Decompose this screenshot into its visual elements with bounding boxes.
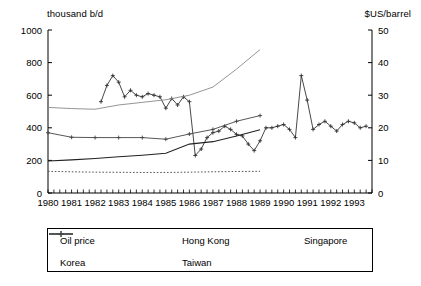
data-point-marker (140, 95, 144, 99)
series-korea (48, 50, 260, 110)
x-tick-label: 1982 (85, 197, 106, 208)
legend-item-taiwan[interactable]: Taiwan (182, 257, 304, 268)
data-point-marker (117, 136, 121, 140)
y2-tick-label: 40 (378, 57, 389, 68)
y2-tick-label: 0 (378, 188, 383, 199)
x-tick-label: 1989 (250, 197, 271, 208)
data-point-marker (305, 98, 309, 102)
data-point-marker (264, 126, 268, 130)
series-line (48, 171, 260, 172)
data-point-marker (364, 124, 368, 128)
data-point-marker (70, 135, 74, 139)
data-point-marker (164, 137, 168, 141)
x-tick-label: 1986 (179, 197, 200, 208)
x-tick-label: 1990 (273, 197, 294, 208)
y-tick-label: 1000 (21, 25, 42, 36)
legend-item-oil-price[interactable]: Oil price (60, 235, 182, 246)
data-point-marker (105, 83, 109, 87)
data-point-marker (258, 139, 262, 143)
data-point-marker (187, 132, 191, 136)
x-tick-label: 1981 (61, 197, 82, 208)
x-tick-label: 1988 (226, 197, 247, 208)
series-line (48, 50, 260, 110)
data-point-marker (99, 100, 103, 104)
series-line (48, 130, 260, 161)
y2-tick-label: 20 (378, 122, 389, 133)
legend-label: Hong Kong (182, 235, 230, 246)
x-tick-label: 1984 (132, 197, 153, 208)
series-line (101, 76, 366, 156)
y-tick-label: 600 (26, 90, 42, 101)
chart-container: thousand b/d $US/barrel 0200400600800100… (0, 0, 421, 286)
data-point-marker (270, 126, 274, 130)
data-point-marker (46, 131, 50, 135)
x-tick-label: 1985 (155, 197, 176, 208)
data-point-marker (346, 119, 350, 123)
series-oil-price (99, 74, 368, 158)
data-point-marker (158, 95, 162, 99)
x-tick-label: 1991 (297, 197, 318, 208)
legend-label: Taiwan (182, 257, 212, 268)
legend-item-korea[interactable]: Korea (60, 257, 182, 268)
data-point-marker (276, 124, 280, 128)
data-point-marker (140, 136, 144, 140)
x-tick-label: 1983 (108, 197, 129, 208)
data-point-marker (258, 114, 262, 118)
data-point-marker (235, 119, 239, 123)
y2-tick-label: 30 (378, 90, 389, 101)
x-tick-label: 1992 (320, 197, 341, 208)
data-point-marker (93, 136, 97, 140)
series-line (48, 116, 260, 140)
legend-item-hong-kong[interactable]: Hong Kong (182, 235, 304, 246)
x-tick-label: 1987 (202, 197, 223, 208)
series-singapore (48, 130, 260, 161)
x-tick-label: 1980 (37, 197, 58, 208)
y2-tick-label: 10 (378, 155, 389, 166)
legend-label: Korea (60, 257, 85, 268)
y2-tick-label: 50 (378, 25, 389, 36)
data-point-marker (152, 93, 156, 97)
y-tick-label: 200 (26, 155, 42, 166)
data-point-marker (299, 74, 303, 78)
y-tick-label: 400 (26, 122, 42, 133)
x-tick-label: 1993 (344, 197, 365, 208)
chart-legend: Oil priceHong KongSingaporeKoreaTaiwan (47, 228, 373, 272)
data-point-marker (146, 92, 150, 96)
legend-label: Singapore (304, 235, 347, 246)
series-hong-kong (48, 171, 260, 172)
data-point-marker (211, 127, 215, 131)
legend-item-singapore[interactable]: Singapore (304, 235, 386, 246)
line-plus-marker-icon (48, 229, 74, 239)
y-tick-label: 800 (26, 57, 42, 68)
